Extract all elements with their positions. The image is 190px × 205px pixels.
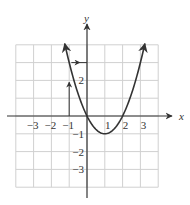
x-tick-label: −3	[27, 119, 39, 131]
x-tick-label: 2	[123, 119, 129, 131]
y-axis-label: y	[83, 12, 89, 24]
y-tick-label: −3	[72, 163, 84, 175]
axes	[7, 24, 172, 198]
parabola-graph: −3−2−11232−1−2−3 x y	[0, 0, 190, 205]
y-tick-label: −2	[72, 146, 84, 158]
x-tick-label: 1	[105, 119, 111, 131]
x-axis-label: x	[178, 110, 184, 122]
y-tick-label: −1	[72, 128, 84, 140]
y-tick-label: 2	[79, 74, 85, 86]
x-tick-label: −2	[45, 119, 57, 131]
x-tick-label: 3	[141, 119, 147, 131]
